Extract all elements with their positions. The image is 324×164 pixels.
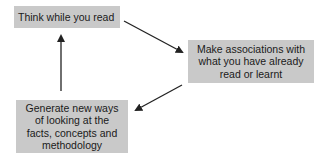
- node-think-while-you-read: Think while you read: [14, 6, 120, 28]
- node-label-line: of looking at the: [26, 114, 119, 127]
- arrow-think-to-associate: [124, 21, 182, 52]
- node-label-line: what you have already: [197, 55, 305, 68]
- arrow-associate-to-generate: [136, 85, 182, 110]
- node-generate-new-ways: Generate new ways of looking at the fact…: [16, 100, 128, 153]
- reading-cycle-diagram: Think while you read Make associations w…: [0, 0, 324, 164]
- node-label-line: facts, concepts and: [26, 127, 119, 140]
- node-make-associations: Make associations with what you have alr…: [188, 40, 314, 83]
- node-label-line: Make associations with: [197, 43, 305, 56]
- node-label: Think while you read: [18, 11, 114, 24]
- node-label-line: read or learnt: [197, 68, 305, 81]
- node-label-line: methodology: [26, 139, 119, 152]
- node-label-line: Generate new ways: [26, 102, 119, 115]
